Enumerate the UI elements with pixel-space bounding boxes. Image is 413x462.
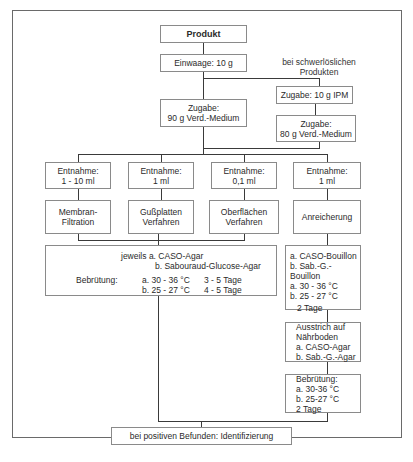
temp-a: a. 30 - 36 °C — [142, 275, 204, 285]
sampling-box-2: Entnahme: 1 ml — [128, 162, 194, 189]
sampling-line: Entnahme: — [140, 166, 181, 176]
alt-addition-line: 80 g Verd.-Medium — [280, 129, 352, 139]
incubation-box: Bebrütung: a. 30-36 °C b. 25-27 °C 2 Tag… — [285, 374, 361, 413]
connector — [203, 43, 204, 54]
product-box: Produkt — [160, 25, 247, 43]
connector — [78, 154, 328, 155]
connector — [161, 189, 162, 200]
media-prefix: jeweils — [121, 251, 147, 261]
sampling-line: Entnahme: — [57, 166, 98, 176]
method-box-membrane: Membran- Filtration — [45, 200, 111, 234]
media-box: jeweils a. CASO-Agar b. Sabouraud-Glucos… — [45, 245, 277, 296]
main-addition-line: 90 g Verd.-Medium — [168, 113, 240, 123]
media-a: a. CASO-Agar — [149, 251, 203, 261]
sampling-volume: 1 ml — [153, 176, 169, 186]
connector — [327, 362, 328, 374]
sampling-box-3: Entnahme: 0,1 ml — [211, 162, 277, 189]
method-line: Gußplatten — [140, 207, 182, 217]
sampling-line: Entnahme: — [223, 166, 264, 176]
method-box-pour-plate: Gußplatten Verfahren — [128, 200, 194, 234]
method-line: Oberflächen — [221, 207, 267, 217]
media-lines: jeweils a. CASO-Agar b. Sabouraud-Glucos… — [46, 251, 276, 271]
temp-b: b. 25 - 27 °C — [142, 285, 204, 295]
incubation-label: Bebrütung: — [296, 374, 338, 384]
broth-b: b. Sab.-G.-Bouillon — [290, 261, 360, 281]
broth-days: 2 Tage — [290, 303, 322, 313]
sampling-box-1: Entnahme: 1 - 10 ml — [45, 162, 111, 189]
connector — [244, 154, 245, 162]
connector — [327, 310, 328, 322]
connector — [327, 413, 328, 421]
alt-addition-line: Zugabe: — [300, 119, 331, 129]
connector — [158, 234, 159, 245]
product-label: Produkt — [186, 29, 220, 39]
broth-temp-b: b. 25 - 27 °C — [290, 291, 338, 301]
ipm-addition-box: Zugabe: 10 g IPM — [276, 86, 353, 104]
media-b: b. Sabouraud-Glucose-Agar — [121, 261, 276, 271]
incubation-b: b. 25-27 °C — [296, 394, 339, 404]
streak-line: Ausstrich auf — [296, 322, 345, 332]
connector — [78, 154, 79, 162]
weigh-in-box: Einwaage: 10 g — [160, 54, 247, 72]
side-note: bei schwerlöslichen Produkten — [274, 57, 364, 77]
method-line: Filtration — [62, 217, 95, 227]
method-line: Verfahren — [226, 217, 263, 227]
connector — [327, 234, 328, 245]
connector — [327, 189, 328, 200]
connector — [161, 154, 162, 162]
sampling-line: Entnahme: — [306, 166, 347, 176]
connector — [78, 189, 79, 200]
sampling-volume: 1 ml — [319, 176, 335, 186]
incubation-label: Bebrütung: — [76, 275, 142, 285]
incubation-grid: Bebrütung: a. 30 - 36 °C 3 - 5 Tage b. 2… — [46, 275, 276, 295]
method-box-surface: Oberflächen Verfahren — [209, 200, 279, 234]
streak-a: a. CASO-Agar — [296, 342, 350, 352]
sampling-volume: 1 - 10 ml — [61, 176, 94, 186]
broth-a: a. CASO-Bouillon — [290, 251, 357, 261]
main-addition-box: Zugabe: 90 g Verd.-Medium — [160, 99, 247, 127]
weigh-in-label: Einwaage: 10 g — [174, 58, 233, 68]
identification-label: bei positiven Befunden: Identifizierung — [130, 431, 274, 441]
main-addition-line: Zugabe: — [188, 103, 219, 113]
connector — [319, 78, 320, 86]
connector — [244, 189, 245, 200]
alt-addition-box: Zugabe: 80 g Verd.-Medium — [276, 115, 356, 142]
method-box-enrichment: Anreicherung — [293, 200, 361, 234]
connector — [203, 148, 320, 149]
identification-box: bei positiven Befunden: Identifizierung — [111, 427, 292, 445]
streak-b: b. Sab.-G.-Agar — [296, 352, 356, 362]
connector — [203, 72, 204, 99]
days-a: 3 - 5 Tage — [204, 275, 264, 285]
sampling-volume: 0,1 ml — [232, 176, 255, 186]
side-note-line: Produkten — [274, 67, 364, 77]
connector — [315, 104, 316, 115]
broth-temp-a: a. 30 - 36 °C — [290, 281, 338, 291]
connector — [203, 127, 204, 154]
streak-line: Nährboden — [296, 332, 338, 342]
incubation-a: a. 30-36 °C — [296, 384, 339, 394]
connector — [203, 78, 320, 79]
connector — [327, 154, 328, 162]
method-line: Verfahren — [143, 217, 180, 227]
connector — [158, 421, 328, 422]
side-note-line: bei schwerlöslichen — [274, 57, 364, 67]
method-line: Membran- — [59, 207, 98, 217]
broth-box: a. CASO-Bouillon b. Sab.-G.-Bouillon a. … — [285, 245, 361, 310]
connector — [158, 296, 159, 421]
streak-box: Ausstrich auf Nährboden a. CASO-Agar b. … — [285, 322, 361, 362]
sampling-box-4: Entnahme: 1 ml — [293, 162, 361, 189]
incubation-days: 2 Tage — [296, 404, 321, 414]
days-b: 4 - 5 Tage — [204, 285, 264, 295]
ipm-addition-label: Zugabe: 10 g IPM — [281, 90, 349, 100]
connector — [78, 240, 245, 241]
method-line: Anreicherung — [302, 212, 353, 222]
